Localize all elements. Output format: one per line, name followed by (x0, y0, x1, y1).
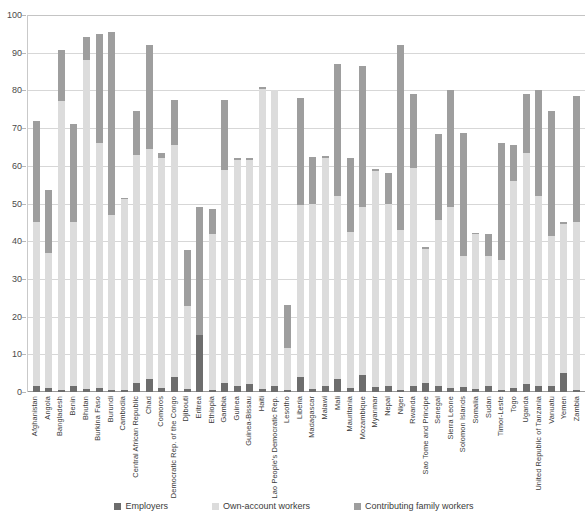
bar-column[interactable] (231, 15, 244, 392)
bar-segment-own-account-workers[interactable] (33, 222, 40, 386)
bar-stack[interactable] (271, 90, 278, 392)
bar-segment-contributing-family-workers[interactable] (498, 143, 505, 260)
bar-segment-employers[interactable] (284, 390, 291, 392)
bar-segment-own-account-workers[interactable] (246, 160, 253, 384)
bar-segment-employers[interactable] (510, 388, 517, 392)
bar-segment-employers[interactable] (58, 390, 65, 392)
bar-column[interactable] (445, 15, 458, 392)
bar-segment-own-account-workers[interactable] (297, 205, 304, 377)
bar-segment-employers[interactable] (33, 386, 40, 392)
bar-segment-employers[interactable] (121, 390, 128, 392)
bar-segment-employers[interactable] (535, 386, 542, 392)
bar-column[interactable] (256, 15, 269, 392)
bar-segment-own-account-workers[interactable] (322, 158, 329, 386)
bar-stack[interactable] (472, 233, 479, 392)
bar-column[interactable] (319, 15, 332, 392)
bar-segment-contributing-family-workers[interactable] (573, 96, 580, 222)
bar-segment-own-account-workers[interactable] (209, 234, 216, 390)
bar-column[interactable] (558, 15, 571, 392)
bar-column[interactable] (394, 15, 407, 392)
bar-segment-employers[interactable] (410, 386, 417, 392)
bar-column[interactable] (344, 15, 357, 392)
bar-segment-employers[interactable] (309, 389, 316, 392)
bar-column[interactable] (407, 15, 420, 392)
bar-column[interactable] (419, 15, 432, 392)
bar-segment-employers[interactable] (447, 388, 454, 392)
bar-segment-employers[interactable] (523, 384, 530, 392)
bar-segment-employers[interactable] (435, 386, 442, 392)
bar-segment-contributing-family-workers[interactable] (359, 66, 366, 207)
bar-stack[interactable] (334, 64, 341, 392)
bar-column[interactable] (457, 15, 470, 392)
bar-segment-contributing-family-workers[interactable] (96, 34, 103, 143)
bar-segment-own-account-workers[interactable] (447, 207, 454, 388)
bar-stack[interactable] (548, 111, 555, 392)
bar-segment-employers[interactable] (45, 388, 52, 392)
bar-column[interactable] (382, 15, 395, 392)
bar-segment-employers[interactable] (221, 383, 228, 392)
bar-column[interactable] (43, 15, 56, 392)
bar-column[interactable] (218, 15, 231, 392)
bar-column[interactable] (131, 15, 144, 392)
bar-segment-own-account-workers[interactable] (70, 222, 77, 386)
bar-segment-employers[interactable] (184, 389, 191, 392)
bar-segment-own-account-workers[interactable] (548, 236, 555, 387)
bar-column[interactable] (168, 15, 181, 392)
bar-segment-contributing-family-workers[interactable] (485, 234, 492, 257)
bar-column[interactable] (80, 15, 93, 392)
bar-stack[interactable] (108, 32, 115, 392)
bar-segment-own-account-workers[interactable] (485, 256, 492, 386)
bar-stack[interactable] (259, 87, 266, 392)
bar-segment-employers[interactable] (573, 390, 580, 392)
bar-stack[interactable] (573, 96, 580, 392)
bar-segment-contributing-family-workers[interactable] (523, 94, 530, 152)
bar-stack[interactable] (33, 121, 40, 392)
bar-segment-contributing-family-workers[interactable] (184, 250, 191, 307)
bar-column[interactable] (143, 15, 156, 392)
bar-stack[interactable] (510, 145, 517, 392)
bar-segment-contributing-family-workers[interactable] (385, 173, 392, 203)
bar-column[interactable] (570, 15, 583, 392)
bar-stack[interactable] (284, 305, 291, 392)
bar-segment-own-account-workers[interactable] (372, 171, 379, 388)
bar-segment-contributing-family-workers[interactable] (460, 133, 467, 256)
bar-segment-contributing-family-workers[interactable] (171, 100, 178, 145)
bar-column[interactable] (105, 15, 118, 392)
bar-segment-contributing-family-workers[interactable] (410, 94, 417, 168)
bar-segment-employers[interactable] (422, 383, 429, 392)
bar-segment-own-account-workers[interactable] (510, 181, 517, 388)
bar-stack[interactable] (58, 50, 65, 392)
bar-segment-contributing-family-workers[interactable] (146, 45, 153, 149)
bar-stack[interactable] (96, 34, 103, 392)
bar-stack[interactable] (498, 143, 505, 392)
bar-segment-contributing-family-workers[interactable] (45, 190, 52, 252)
bar-column[interactable] (55, 15, 68, 392)
bar-segment-own-account-workers[interactable] (422, 249, 429, 383)
bar-segment-employers[interactable] (259, 389, 266, 392)
bar-segment-contributing-family-workers[interactable] (284, 305, 291, 348)
bar-stack[interactable] (359, 66, 366, 392)
bar-segment-own-account-workers[interactable] (359, 207, 366, 375)
bar-column[interactable] (193, 15, 206, 392)
bar-segment-own-account-workers[interactable] (58, 101, 65, 389)
legend-item[interactable]: Contributing family workers (354, 501, 474, 511)
bar-column[interactable] (332, 15, 345, 392)
bar-segment-contributing-family-workers[interactable] (309, 157, 316, 204)
bar-column[interactable] (206, 15, 219, 392)
bar-segment-own-account-workers[interactable] (45, 253, 52, 389)
bar-segment-contributing-family-workers[interactable] (108, 32, 115, 215)
bar-segment-contributing-family-workers[interactable] (347, 158, 354, 232)
bar-segment-contributing-family-workers[interactable] (221, 100, 228, 170)
bar-segment-employers[interactable] (472, 389, 479, 392)
bar-segment-employers[interactable] (70, 386, 77, 392)
bar-segment-employers[interactable] (460, 387, 467, 392)
bar-stack[interactable] (560, 222, 567, 392)
bar-segment-employers[interactable] (83, 389, 90, 392)
bar-stack[interactable] (146, 45, 153, 392)
bar-segment-own-account-workers[interactable] (385, 204, 392, 387)
bar-segment-own-account-workers[interactable] (334, 196, 341, 379)
bar-stack[interactable] (447, 90, 454, 392)
bar-column[interactable] (156, 15, 169, 392)
bar-segment-contributing-family-workers[interactable] (548, 111, 555, 235)
bar-segment-own-account-workers[interactable] (184, 306, 191, 389)
